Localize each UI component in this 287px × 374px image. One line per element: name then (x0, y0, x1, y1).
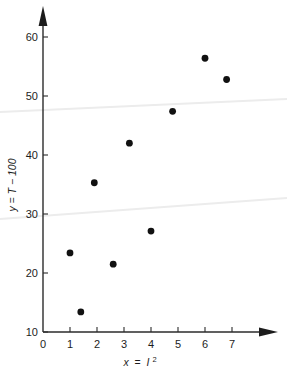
data-point (202, 55, 209, 62)
x-axis-label: x = I 2 (122, 355, 156, 368)
y-tick-label-30: 30 (26, 208, 38, 220)
data-point (169, 108, 176, 115)
x-tick-label-0: 0 (40, 338, 46, 350)
x-axis-label-equals: = (135, 356, 141, 368)
data-point (77, 309, 84, 316)
x-tick-label-7: 7 (229, 338, 235, 350)
y-axis-label: y = T − 100 (6, 158, 18, 212)
data-point (126, 140, 133, 147)
y-tick-label-40: 40 (26, 149, 38, 161)
chart-canvas: 60 50 40 30 20 10 y = T − 100 0 1 2 3 4 … (0, 0, 287, 374)
y-tick-label-20: 20 (26, 267, 38, 279)
y-tick-label-50: 50 (26, 90, 38, 102)
y-tick-label-60: 60 (26, 31, 38, 43)
data-points-layer (67, 55, 230, 316)
right-arrow-icon (259, 327, 278, 336)
data-point (148, 228, 155, 235)
x-tick-label-3: 3 (121, 338, 127, 350)
x-axis-label-term: I (147, 356, 150, 368)
x-axis-label-exponent: 2 (152, 355, 156, 364)
x-tick-label-6: 6 (202, 338, 208, 350)
scatter-chart: 60 50 40 30 20 10 y = T − 100 0 1 2 3 4 … (0, 0, 287, 374)
x-tick-label-5: 5 (175, 338, 181, 350)
data-point (67, 250, 74, 257)
data-point (91, 179, 98, 186)
y-axis: 60 50 40 30 20 10 y = T − 100 (6, 6, 48, 338)
x-axis-label-var: x (122, 356, 129, 368)
x-tick-label-2: 2 (94, 338, 100, 350)
y-tick-label-10: 10 (26, 326, 38, 338)
data-point (110, 261, 117, 268)
data-point (223, 76, 230, 83)
up-arrow-icon (39, 6, 48, 26)
x-tick-label-1: 1 (67, 338, 73, 350)
x-tick-label-4: 4 (148, 338, 154, 350)
x-axis: 0 1 2 3 4 5 6 7 x = I 2 (40, 327, 278, 368)
